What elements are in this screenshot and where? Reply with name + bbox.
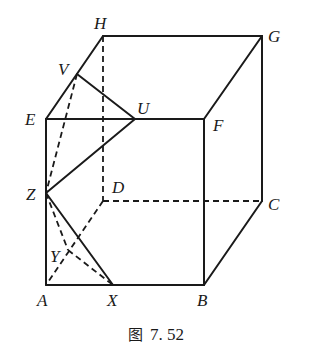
label-h: H	[93, 14, 108, 33]
edge-g-f	[204, 36, 262, 119]
edge-z-y	[46, 193, 68, 250]
figure-caption: 图 7. 52	[128, 325, 184, 344]
vertex-labels: H G V E U F D C Z Y A X B	[24, 14, 280, 310]
edge-v-z	[46, 74, 77, 193]
cube-diagram: H G V E U F D C Z Y A X B 图 7. 52	[0, 0, 311, 354]
label-u: U	[137, 99, 151, 118]
edge-e-h	[46, 36, 103, 119]
label-f: F	[212, 116, 224, 135]
caption-number: 7. 52	[150, 325, 184, 344]
label-e: E	[24, 110, 36, 129]
edge-v-u	[77, 74, 135, 119]
label-x: X	[106, 291, 118, 310]
label-c: C	[268, 195, 280, 214]
caption-prefix: 图	[128, 326, 143, 344]
label-z: Z	[26, 185, 36, 204]
label-y: Y	[50, 247, 61, 266]
label-b: B	[197, 291, 208, 310]
edge-c-b	[204, 201, 262, 285]
label-d: D	[111, 178, 125, 197]
solid-edges	[46, 36, 262, 285]
label-a: A	[36, 291, 48, 310]
label-v: V	[58, 60, 71, 79]
label-g: G	[268, 27, 280, 46]
